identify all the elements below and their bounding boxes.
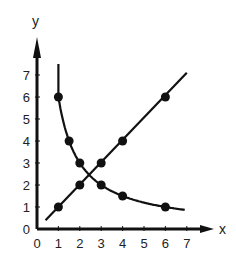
direct-data-point xyxy=(54,203,63,212)
y-tick-label: 7 xyxy=(23,68,30,83)
inverse-data-point xyxy=(97,181,106,190)
y-axis-label: y xyxy=(32,13,39,29)
x-tick-label: 2 xyxy=(76,236,83,251)
x-tick-label: 3 xyxy=(98,236,105,251)
direct-data-point xyxy=(75,181,84,190)
inverse-data-point xyxy=(118,192,127,201)
y-tick-label: 1 xyxy=(23,200,30,215)
x-tick-label: 5 xyxy=(140,236,147,251)
inverse-data-point xyxy=(161,203,170,212)
y-tick-label: 5 xyxy=(23,112,30,127)
x-tick-label: 0 xyxy=(33,236,40,251)
direct-data-point xyxy=(97,159,106,168)
x-tick-label: 4 xyxy=(119,236,126,251)
inverse-data-point xyxy=(54,93,63,102)
x-tick-label: 6 xyxy=(162,236,169,251)
y-tick-label: 3 xyxy=(23,156,30,171)
direct-data-point xyxy=(161,93,170,102)
inverse-data-point xyxy=(75,159,84,168)
x-tick-label: 1 xyxy=(55,236,62,251)
y-tick-label: 4 xyxy=(23,134,30,149)
y-tick-label: 6 xyxy=(23,90,30,105)
x-axis-label: x xyxy=(219,221,226,237)
y-tick-label: 2 xyxy=(23,178,30,193)
y-axis-arrow-icon xyxy=(33,37,41,58)
direct-data-point xyxy=(118,137,127,146)
chart: 0123456701234567 x y xyxy=(0,0,236,270)
x-axis-arrow-icon xyxy=(200,225,214,233)
y-tick-label: 0 xyxy=(23,222,30,237)
inverse-data-point xyxy=(65,137,74,146)
x-tick-label: 7 xyxy=(183,236,190,251)
